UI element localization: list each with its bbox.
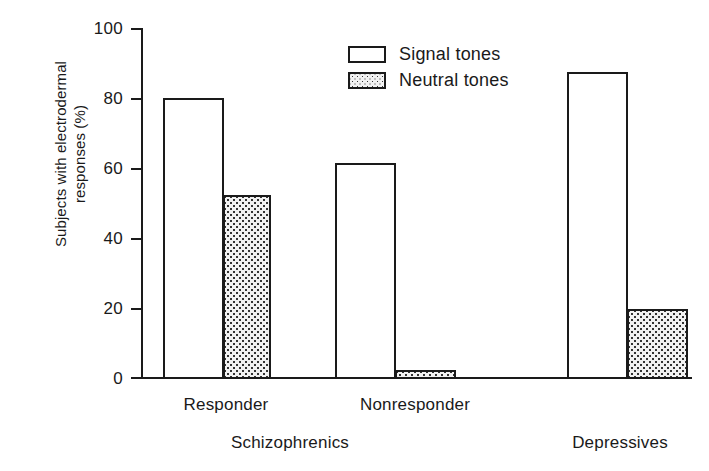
bar-depressives-neutral <box>627 309 688 379</box>
y-tick-label-0: 0 <box>65 370 123 387</box>
x-label-nonresponder: Nonresponder <box>315 396 515 413</box>
y-tick-40 <box>131 238 142 240</box>
y-tick-label-100: 100 <box>65 20 123 37</box>
legend-item-neutral-tones: Neutral tones <box>348 67 509 93</box>
y-tick-100 <box>131 28 142 30</box>
legend: Signal tones Neutral tones <box>348 41 509 93</box>
legend-swatch-neutral-icon <box>348 72 386 89</box>
y-axis-title: Subjects with electrodermalresponses (%) <box>51 0 89 314</box>
y-tick-80 <box>131 98 142 100</box>
y-tick-label-20: 20 <box>65 300 123 317</box>
y-tick-label-40: 40 <box>65 230 123 247</box>
x-group-label-depressives: Depressives <box>530 434 709 451</box>
bar-responder-signal <box>163 98 224 379</box>
y-tick-label-60: 60 <box>65 160 123 177</box>
bar-responder-neutral <box>223 195 271 379</box>
bar-depressives-signal <box>567 72 628 379</box>
y-tick-60 <box>131 168 142 170</box>
x-group-label-schizophrenics: Schizophrenics <box>190 434 390 451</box>
legend-swatch-signal-icon <box>348 46 386 63</box>
legend-item-signal-tones: Signal tones <box>348 41 509 67</box>
y-axis-line <box>141 28 143 379</box>
x-label-responder: Responder <box>146 396 306 413</box>
y-tick-20 <box>131 308 142 310</box>
bar-nonresponder-neutral <box>395 370 456 379</box>
y-tick-label-80: 80 <box>65 90 123 107</box>
bar-nonresponder-signal <box>335 163 396 379</box>
legend-label-neutral-tones: Neutral tones <box>399 71 509 89</box>
y-axis-title-line2: responses (%) <box>71 105 88 203</box>
y-axis-title-line1: Subjects with electrodermal <box>52 61 69 247</box>
bar-chart-figure: Subjects with electrodermalresponses (%)… <box>0 0 709 471</box>
legend-label-signal-tones: Signal tones <box>399 45 500 63</box>
